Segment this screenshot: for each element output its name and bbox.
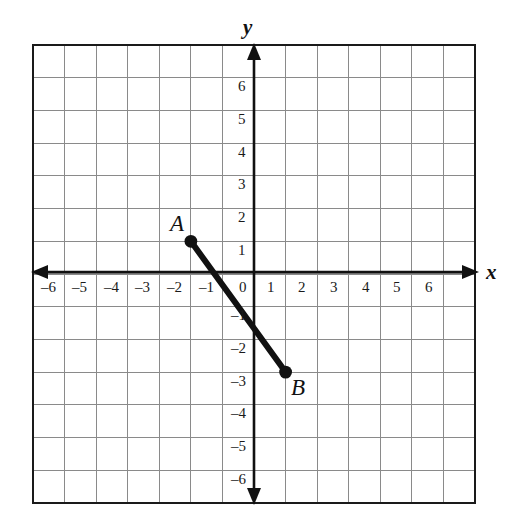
x-tick-label--5: –5 (72, 280, 87, 295)
point-a-marker (185, 235, 198, 248)
point-b-label: B (291, 376, 305, 399)
x-tick-label--2: –2 (167, 280, 182, 295)
y-tick-label-2: 2 (238, 210, 246, 225)
x-tick-label-4: 4 (362, 280, 370, 295)
x-tick-label-6: 6 (425, 280, 433, 295)
y-axis-label: y (243, 17, 252, 38)
x-tick-label-1: 1 (267, 280, 275, 295)
x-tick-label--4: –4 (104, 280, 119, 295)
y-tick-label-3: 3 (238, 177, 246, 192)
x-axis-right-arrowhead (462, 265, 479, 279)
y-tick-label--1: –1 (231, 308, 246, 323)
x-tick-label--1: –1 (199, 280, 214, 295)
x-tick-label--6: –6 (41, 280, 56, 295)
x-tick-label-3: 3 (330, 280, 338, 295)
y-tick-label-6: 6 (238, 79, 246, 94)
y-tick-label--6: –6 (231, 472, 246, 487)
x-tick-label-5: 5 (393, 280, 401, 295)
y-tick-label-1: 1 (238, 243, 246, 258)
y-tick-label-5: 5 (238, 112, 246, 127)
y-tick-label--2: –2 (231, 341, 246, 356)
x-tick-label-0: 0 (239, 280, 247, 295)
x-tick-label--3: –3 (135, 280, 150, 295)
y-tick-label-4: 4 (238, 145, 246, 160)
x-axis-label: x (486, 262, 497, 283)
point-a-label: A (170, 212, 184, 235)
coordinate-plane-figure: –6 –5 –4 –3 –2 –1 0 1 2 3 4 5 6 6 5 4 3 … (0, 0, 514, 526)
y-tick-label--3: –3 (231, 374, 246, 389)
y-tick-label--5: –5 (231, 439, 246, 454)
graph-canvas (0, 0, 514, 526)
y-tick-label--4: –4 (231, 406, 246, 421)
x-tick-label-2: 2 (298, 280, 306, 295)
